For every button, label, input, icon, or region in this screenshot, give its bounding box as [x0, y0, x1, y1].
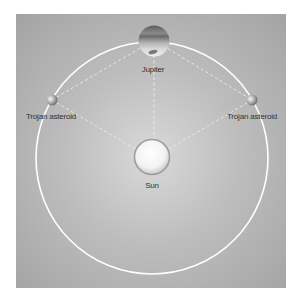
sun-label: Sun — [145, 181, 159, 190]
trojan-right-label: Trojan asteroid — [227, 112, 277, 121]
trojan-asteroid-left — [47, 95, 58, 106]
lagrange-lines — [52, 40, 252, 150]
orbit-diagram — [0, 0, 298, 303]
sun — [135, 140, 170, 175]
trojan-left-label: Trojan asteroid — [26, 112, 76, 121]
trojan-asteroid-right — [247, 95, 258, 106]
jupiter-planet — [139, 26, 170, 57]
jupiter-label: Jupiter — [142, 65, 165, 74]
